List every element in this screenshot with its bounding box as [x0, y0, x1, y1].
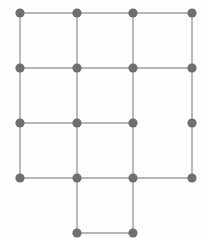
node-r4c4: [187, 173, 196, 182]
node-r5c2: [72, 228, 81, 237]
node-r1c4: [187, 8, 196, 17]
node-r3c1: [15, 118, 24, 127]
node-r3c4: [187, 118, 196, 127]
node-r4c1: [15, 173, 24, 182]
node-r3c2: [72, 118, 81, 127]
node-r1c1: [15, 8, 24, 17]
node-r4c2: [72, 173, 81, 182]
node-r2c3: [128, 63, 137, 72]
node-r1c3: [128, 8, 137, 17]
node-r2c4: [187, 63, 196, 72]
node-r2c2: [72, 63, 81, 72]
node-r3c3: [128, 118, 137, 127]
lattice-figure: [0, 0, 202, 238]
node-r1c2: [72, 8, 81, 17]
node-r4c3: [128, 173, 137, 182]
grid-graph-svg: [0, 0, 202, 238]
node-r5c3: [128, 228, 137, 237]
node-r2c1: [15, 63, 24, 72]
